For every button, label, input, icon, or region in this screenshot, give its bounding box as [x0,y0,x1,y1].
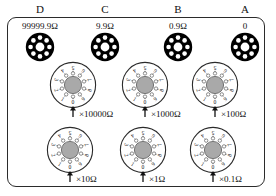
svg-text:5: 5 [71,65,74,71]
rotary-dial-icon: 0123456789 [121,61,169,109]
svg-text:5: 5 [68,130,71,136]
terminal-socket-d[interactable] [25,32,55,62]
rotary-dial-icon: 0123456789 [191,61,239,109]
terminal-letter-d: D [25,4,55,15]
rotary-dial-icon: 0123456789 [189,126,237,174]
svg-text:5: 5 [213,65,216,71]
dial-pointer-x10 [66,171,74,182]
terminal-value-d: 99999.9Ω [10,22,70,31]
dial-x10[interactable]: 0123456789 [46,126,94,174]
terminal-socket-icon [163,32,193,62]
terminal-socket-b[interactable] [163,32,193,62]
dial-pointer-x1000 [141,106,149,117]
dial-pointer-x0p1 [209,171,217,182]
terminal-socket-icon [230,32,260,62]
rotary-dial-icon: 0123456789 [119,126,167,174]
rotary-dial-icon: 0123456789 [49,61,97,109]
terminal-socket-icon [25,32,55,62]
dial-pointer-x10000 [69,106,77,117]
svg-text:0: 0 [72,99,75,105]
svg-text:0: 0 [142,164,145,170]
terminal-socket-c[interactable] [90,32,120,62]
svg-text:5: 5 [141,130,144,136]
terminal-letter-a: A [230,4,260,15]
terminal-value-b: 0.9Ω [158,22,198,31]
terminal-letter-b: B [163,4,193,15]
terminal-letter-c: C [90,4,120,15]
svg-text:0: 0 [144,99,147,105]
svg-text:0: 0 [212,164,215,170]
dial-x100[interactable]: 0123456789 [191,61,239,109]
resistance-box-figure: D C B A 99999.9Ω 9.9Ω 0.9Ω 0 [0,0,276,196]
terminal-value-a: 0 [230,22,260,31]
dial-x1[interactable]: 0123456789 [119,126,167,174]
rotary-dial-icon: 0123456789 [46,126,94,174]
dial-multiplier-x1: ×1Ω [149,175,165,184]
dial-x0p1[interactable]: 0123456789 [189,126,237,174]
dial-multiplier-x0p1: ×0.1Ω [219,175,242,184]
terminal-socket-icon [90,32,120,62]
dial-multiplier-x10: ×10Ω [76,175,97,184]
dial-pointer-x100 [211,106,219,117]
dial-x10000[interactable]: 0123456789 [49,61,97,109]
dial-pointer-x1 [139,171,147,182]
dial-x1000[interactable]: 0123456789 [121,61,169,109]
dial-multiplier-x1000: ×1000Ω [151,110,181,119]
dial-multiplier-x10000: ×10000Ω [79,110,113,119]
terminal-value-c: 9.9Ω [85,22,125,31]
svg-text:0: 0 [214,99,217,105]
dial-multiplier-x100: ×100Ω [221,110,246,119]
svg-text:5: 5 [211,130,214,136]
svg-text:0: 0 [69,164,72,170]
svg-text:5: 5 [143,65,146,71]
terminal-socket-a[interactable] [230,32,260,62]
